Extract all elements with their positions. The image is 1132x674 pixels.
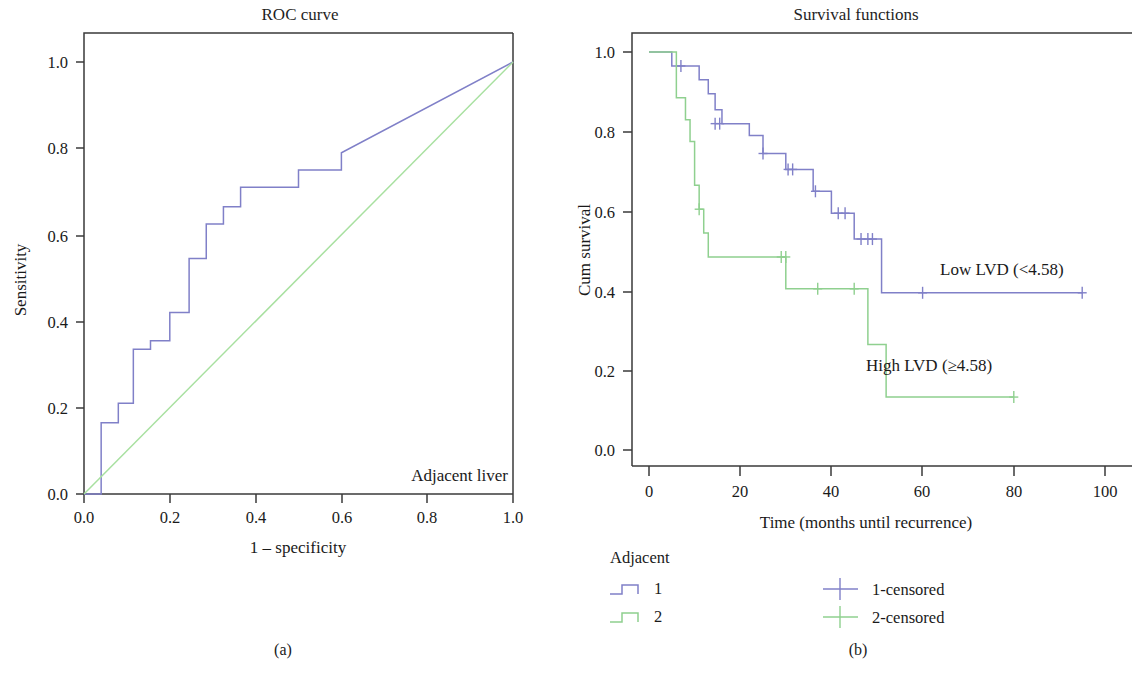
survival-y-tick-label: 0.0 bbox=[594, 441, 615, 460]
roc-x-tick-label: 0.2 bbox=[160, 508, 181, 527]
roc-x-tick-label: 0.4 bbox=[246, 508, 267, 527]
survival-series-2-censor-marker bbox=[781, 251, 790, 263]
roc-y-tick-label: 1.0 bbox=[47, 53, 68, 72]
roc-x-tick-label: 0.6 bbox=[332, 508, 353, 527]
legend-step-line-icon bbox=[610, 585, 638, 594]
roc-series-group bbox=[84, 62, 513, 494]
survival-series-1-censor-marker bbox=[918, 287, 927, 299]
legend-item-label: 1 bbox=[654, 579, 662, 598]
roc-x-tick-label: 0.0 bbox=[74, 508, 95, 527]
roc-x-axis-title: 1 – specificity bbox=[250, 538, 347, 557]
survival-x-tick-label: 60 bbox=[914, 482, 931, 501]
survival-y-tick-label: 1.0 bbox=[594, 43, 615, 62]
roc-annotation-label: Adjacent liver bbox=[411, 466, 508, 485]
survival-series-2-path bbox=[649, 52, 1014, 397]
panel-b-survival-functions: Survival functions 1.0 0.8 0.6 0.4 0.2 0… bbox=[566, 0, 1132, 674]
survival-series-1-censor-marker bbox=[676, 60, 685, 72]
roc-x-tick-label: 1.0 bbox=[503, 508, 524, 527]
survival-series-1-censor-marker bbox=[1078, 287, 1087, 299]
survival-legend: Adjacent 1 2 1-censored bbox=[610, 548, 945, 628]
legend-item-censored-2[interactable]: 2-censored bbox=[823, 606, 945, 628]
roc-axis-frame-top-left bbox=[84, 33, 513, 494]
roc-x-tick-label: 0.8 bbox=[417, 508, 438, 527]
survival-x-tick-label: 0 bbox=[645, 482, 653, 501]
survival-series-1-censor-marker bbox=[788, 163, 797, 175]
survival-x-axis-title: Time (months until recurrence) bbox=[760, 513, 972, 532]
survival-chart-svg: Survival functions 1.0 0.8 0.6 0.4 0.2 0… bbox=[566, 0, 1132, 674]
survival-series-1-censor-marker bbox=[759, 147, 768, 159]
survival-y-tick-label: 0.6 bbox=[594, 203, 615, 222]
survival-y-ticks: 1.0 0.8 0.6 0.4 0.2 0.0 bbox=[594, 43, 632, 460]
survival-series-2-censor-marker bbox=[695, 203, 704, 215]
roc-chart-title: ROC curve bbox=[262, 5, 339, 24]
legend-item-censored-1[interactable]: 1-censored bbox=[823, 578, 945, 600]
legend-step-line-icon bbox=[610, 613, 638, 622]
roc-y-tick-label: 0.6 bbox=[47, 227, 68, 246]
survival-y-tick-label: 0.8 bbox=[594, 123, 615, 142]
survival-x-ticks: 0 20 40 60 80 100 bbox=[645, 466, 1118, 501]
roc-y-tick-label: 0.0 bbox=[47, 485, 68, 504]
survival-series-2-censor-marker bbox=[1009, 391, 1018, 403]
roc-y-tick-label: 0.2 bbox=[47, 399, 68, 418]
roc-y-tick-label: 0.4 bbox=[47, 313, 68, 332]
survival-series-1-censor-marker bbox=[715, 118, 724, 130]
plus-marker-icon bbox=[823, 606, 858, 628]
panel-a-caption: (a) bbox=[274, 641, 292, 659]
survival-series-group bbox=[649, 52, 1087, 403]
survival-x-tick-label: 20 bbox=[732, 482, 749, 501]
panel-a-roc-curve: ROC curve 1.0 0.8 0.6 0.4 0.2 0.0 bbox=[0, 0, 566, 674]
survival-series-1-censor-marker bbox=[811, 185, 820, 197]
survival-x-tick-label: 100 bbox=[1093, 482, 1118, 501]
survival-series-1-censor-marker bbox=[868, 233, 877, 245]
figure-root: ROC curve 1.0 0.8 0.6 0.4 0.2 0.0 bbox=[0, 0, 1132, 674]
survival-y-tick-label: 0.4 bbox=[594, 283, 615, 302]
roc-chart-svg: ROC curve 1.0 0.8 0.6 0.4 0.2 0.0 bbox=[0, 0, 566, 674]
roc-x-ticks: 0.0 0.2 0.4 0.6 0.8 1.0 bbox=[74, 494, 524, 527]
survival-chart-title: Survival functions bbox=[793, 5, 918, 24]
survival-series-2-censor-marker bbox=[850, 283, 859, 295]
roc-y-ticks: 1.0 0.8 0.6 0.4 0.2 0.0 bbox=[47, 53, 84, 504]
roc-y-tick-label: 0.8 bbox=[47, 139, 68, 158]
roc-y-axis-title: Sensitivity bbox=[11, 243, 30, 316]
plus-marker-icon bbox=[823, 578, 858, 600]
survival-series-2-censor-marker bbox=[813, 283, 822, 295]
survival-x-tick-label: 80 bbox=[1006, 482, 1023, 501]
roc-axes bbox=[84, 33, 513, 494]
panel-b-caption: (b) bbox=[849, 641, 868, 659]
survival-annotation-high-lvd: High LVD (≥4.58) bbox=[866, 356, 992, 375]
legend-item-series-2[interactable]: 2 bbox=[610, 607, 662, 626]
roc-series-path-reference-line bbox=[84, 62, 513, 494]
survival-series-1-censor-marker bbox=[841, 207, 850, 219]
survival-x-tick-label: 40 bbox=[823, 482, 840, 501]
legend-censored-label: 1-censored bbox=[872, 580, 945, 599]
legend-header: Adjacent bbox=[610, 548, 670, 567]
survival-y-axis-title: Cum survival bbox=[575, 204, 594, 296]
legend-item-label: 2 bbox=[654, 607, 662, 626]
legend-censored-label: 2-censored bbox=[872, 608, 945, 627]
legend-item-series-1[interactable]: 1 bbox=[610, 579, 662, 598]
survival-annotation-low-lvd: Low LVD (<4.58) bbox=[940, 260, 1064, 279]
survival-y-tick-label: 0.2 bbox=[594, 362, 615, 381]
